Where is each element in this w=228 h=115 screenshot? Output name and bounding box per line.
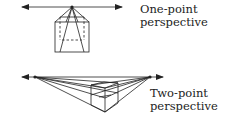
perspective-diagram: One-point perspective Two-point perspect… <box>0 0 228 115</box>
label-line: Two-point <box>150 87 218 100</box>
label-line: perspective <box>140 16 208 29</box>
label-line: One-point <box>140 3 208 16</box>
two-point-diagram <box>22 75 163 112</box>
one-point-diagram <box>22 5 122 52</box>
one-point-label: One-point perspective <box>140 3 208 28</box>
two-point-label: Two-point perspective <box>150 87 218 112</box>
label-line: perspective <box>150 100 218 113</box>
